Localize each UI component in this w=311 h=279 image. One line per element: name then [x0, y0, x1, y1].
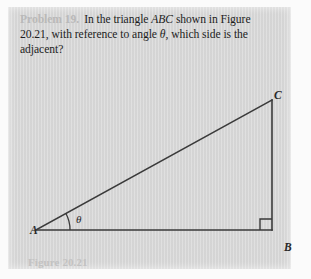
figure-caption: Figure 20.21 — [28, 256, 88, 268]
angle-arc — [66, 213, 70, 230]
right-angle-marker — [260, 219, 272, 230]
vertex-label-b: B — [284, 241, 292, 253]
vertex-label-c: C — [274, 89, 282, 101]
figure-page: Problem 19.In the triangle ABC shown in … — [0, 0, 311, 279]
angle-label-theta: θ — [76, 213, 81, 225]
triangle-figure: A B C θ Figure 20.21 — [8, 7, 291, 269]
vertex-label-a: A — [30, 224, 38, 236]
triangle-svg — [8, 7, 291, 269]
side-hypotenuse-line — [36, 100, 272, 230]
